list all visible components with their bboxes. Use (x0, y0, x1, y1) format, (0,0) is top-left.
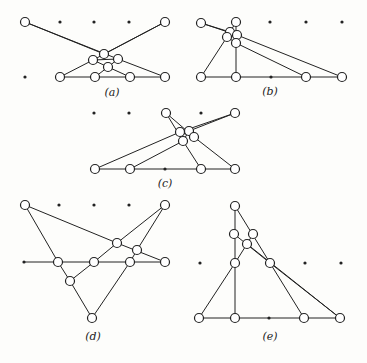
grid-dot (339, 261, 342, 264)
edge (25, 205, 117, 243)
grid-dot (92, 203, 95, 206)
node-circle (54, 258, 63, 267)
node-circle (161, 201, 170, 210)
edge (201, 37, 227, 77)
node-circle (126, 73, 135, 82)
node-circle (230, 230, 239, 239)
graph-diagram (0, 0, 367, 363)
grid-dot (267, 316, 270, 319)
grid-dot (303, 261, 306, 264)
node-circle (300, 314, 309, 323)
edge (130, 141, 183, 169)
node-circle (231, 202, 240, 211)
node-circle (195, 314, 204, 323)
node-circle (161, 18, 170, 27)
node-circle (161, 73, 170, 82)
edge (25, 22, 104, 54)
edge (117, 205, 165, 243)
edge (25, 205, 58, 262)
edge (237, 35, 342, 77)
grid-dot (127, 203, 130, 206)
panel-label: (c) (158, 177, 173, 190)
node-circle (197, 73, 206, 82)
grid-dot (23, 75, 26, 78)
grid-dot (58, 20, 61, 23)
grid-dot (22, 260, 25, 263)
panel-b (197, 18, 347, 82)
node-circle (89, 56, 98, 65)
node-circle (66, 277, 75, 286)
node-circle (88, 314, 97, 323)
edge (270, 263, 340, 318)
grid-dot (127, 111, 130, 114)
panel-e (195, 202, 345, 323)
node-circle (197, 19, 206, 28)
panel-c (91, 109, 240, 174)
node-circle (126, 258, 135, 267)
edge (199, 263, 235, 318)
grid-dot (269, 75, 272, 78)
node-circle (223, 33, 232, 42)
node-circle (21, 18, 30, 27)
grid-dot (304, 20, 307, 23)
node-circle (176, 128, 185, 137)
edge (60, 60, 93, 77)
grid-dot (198, 261, 201, 264)
node-circle (302, 73, 311, 82)
panel-label: (e) (262, 330, 277, 343)
edge (104, 22, 165, 54)
node-circle (231, 165, 240, 174)
node-circle (133, 246, 142, 255)
node-circle (90, 258, 99, 267)
node-circle (21, 201, 30, 210)
panel-a (21, 18, 170, 82)
grid-dot (163, 167, 166, 170)
edge (70, 281, 92, 318)
node-circle (100, 50, 109, 59)
grid-dot (340, 20, 343, 23)
node-circle (231, 109, 240, 118)
edge (189, 113, 235, 131)
node-circle (249, 230, 258, 239)
node-circle (104, 63, 113, 72)
edge (270, 263, 304, 318)
grid-dot (92, 111, 95, 114)
edge (137, 205, 165, 250)
figure: (a)(b)(c)(d)(e) (0, 0, 367, 363)
node-circle (266, 259, 275, 268)
panel-label: (b) (262, 85, 278, 98)
panel-label: (d) (85, 330, 101, 343)
node-circle (162, 109, 171, 118)
grid-dot (199, 111, 202, 114)
node-circle (232, 39, 241, 48)
node-circle (231, 314, 240, 323)
node-circle (56, 73, 65, 82)
node-circle (91, 73, 100, 82)
node-circle (336, 314, 345, 323)
node-circle (161, 258, 170, 267)
panel-d (21, 201, 170, 323)
node-circle (232, 73, 241, 82)
node-circle (338, 73, 347, 82)
grid-dot (127, 20, 130, 23)
node-circle (197, 165, 206, 174)
node-circle (231, 259, 240, 268)
grid-dot (57, 203, 60, 206)
edge (92, 262, 130, 318)
node-circle (126, 165, 135, 174)
node-circle (243, 240, 252, 249)
node-circle (91, 165, 100, 174)
panel-label: (a) (104, 86, 119, 99)
node-circle (179, 137, 188, 146)
node-circle (113, 239, 122, 248)
node-circle (114, 55, 123, 64)
node-circle (232, 18, 241, 27)
grid-dot (92, 20, 95, 23)
edge (95, 132, 180, 169)
grid-dot (268, 20, 271, 23)
node-circle (190, 133, 199, 142)
